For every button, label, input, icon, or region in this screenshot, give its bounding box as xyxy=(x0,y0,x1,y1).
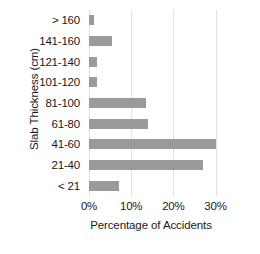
y-tick-label: > 160 xyxy=(28,10,84,31)
bar-row xyxy=(89,51,224,72)
bar-row xyxy=(89,175,224,196)
bar xyxy=(89,119,148,129)
bar-row xyxy=(89,72,224,93)
y-tick-label: 101-120 xyxy=(28,72,84,93)
bar-rows xyxy=(89,10,224,196)
bar-row xyxy=(89,93,224,114)
bar xyxy=(89,181,119,191)
bar xyxy=(89,57,97,67)
bar xyxy=(89,36,112,46)
bar-row xyxy=(89,134,224,155)
bar xyxy=(89,160,203,170)
bar-row xyxy=(89,31,224,52)
x-tick-label: 0% xyxy=(81,200,97,212)
bar xyxy=(89,77,97,87)
bar-chart-figure: Slab Thickness (cm) > 160 141-160 121-14… xyxy=(0,0,260,254)
bar-row xyxy=(89,155,224,176)
y-tick-label: 141-160 xyxy=(28,31,84,52)
bar xyxy=(89,139,216,149)
y-tick-label: 41-60 xyxy=(28,134,84,155)
x-axis-title: Percentage of Accidents xyxy=(0,219,260,231)
y-tick-label: < 21 xyxy=(28,175,84,196)
bar xyxy=(89,15,94,25)
x-tick-label: 10% xyxy=(120,200,142,212)
x-tick-label: 30% xyxy=(204,200,226,212)
y-tick-label: 61-80 xyxy=(28,113,84,134)
y-axis-tick-labels: > 160 141-160 121-140 101-120 81-100 61-… xyxy=(28,10,84,196)
y-tick-label: 21-40 xyxy=(28,155,84,176)
x-axis-tick-labels: 0%10%20%30% xyxy=(89,200,224,216)
y-tick-label: 81-100 xyxy=(28,93,84,114)
x-tick-label: 20% xyxy=(162,200,184,212)
bar-row xyxy=(89,113,224,134)
y-tick-label: 121-140 xyxy=(28,51,84,72)
plot-area xyxy=(89,10,224,196)
bar xyxy=(89,98,146,108)
bar-row xyxy=(89,10,224,31)
